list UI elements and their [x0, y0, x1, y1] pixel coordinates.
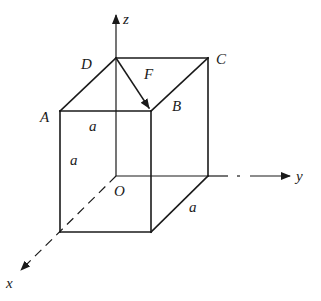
label-z: z — [122, 11, 129, 27]
edge-bottom-right — [151, 176, 208, 232]
label-B: B — [172, 98, 181, 114]
label-O: O — [114, 183, 125, 199]
label-D: D — [80, 56, 92, 72]
label-x: x — [5, 275, 13, 291]
label-a-top: a — [89, 118, 97, 134]
label-a-depth: a — [189, 199, 197, 215]
label-y: y — [294, 168, 303, 184]
label-a-vertical: a — [70, 152, 78, 168]
x-axis — [21, 176, 116, 270]
label-A: A — [39, 109, 50, 125]
label-F: F — [143, 66, 154, 82]
label-C: C — [216, 51, 227, 67]
cube-force-diagram: z y x O D C A B F a a a — [0, 0, 321, 301]
